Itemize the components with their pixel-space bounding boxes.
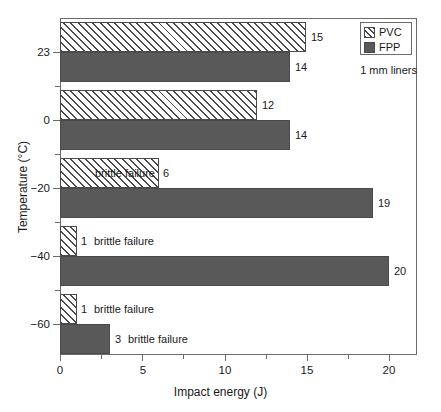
bar-fpp-minus20: [60, 188, 373, 218]
legend: PVC FPP: [360, 22, 412, 55]
ytick-boundary-1: [55, 86, 60, 87]
xtick-label-20: 20: [374, 364, 404, 376]
xtick-label-5: 5: [128, 364, 158, 376]
ytick-0: [53, 120, 60, 121]
ytick-minus40: [53, 256, 60, 257]
annotation-pvc-minus60: brittle failure: [94, 304, 154, 315]
ytick-label-minus60: −60: [18, 318, 50, 330]
value-label-pvc-minus60: 1: [81, 304, 87, 315]
bar-pvc-23: [60, 22, 306, 52]
value-label-fpp-minus60: 3: [115, 334, 121, 345]
annotation-pvc-minus20: brittle failure: [95, 168, 155, 179]
bar-pvc-0: [60, 90, 257, 120]
xtick-label-15: 15: [292, 364, 322, 376]
legend-entry-pvc: PVC: [364, 26, 411, 39]
ytick-boundary-4: [55, 290, 60, 291]
ytick-boundary-3: [55, 222, 60, 223]
ytick-minus60: [53, 324, 60, 325]
value-label-fpp-minus40: 20: [394, 266, 406, 277]
value-label-pvc-minus40: 1: [81, 236, 87, 247]
xtick-15: [307, 355, 308, 361]
value-label-pvc-23: 15: [311, 32, 323, 43]
value-label-pvc-0: 12: [262, 100, 274, 111]
legend-label-fpp: FPP: [379, 42, 400, 53]
xtick-minor-17p5: [348, 355, 349, 359]
xtick-minor-12p5: [266, 355, 267, 359]
bar-fpp-23: [60, 52, 290, 82]
impact-energy-bar-chart: 15 14 12 14 brittle failure 6 19 1 britt…: [0, 0, 441, 412]
value-label-fpp-minus20: 19: [378, 198, 390, 209]
ytick-label-23: 23: [18, 46, 50, 58]
bar-fpp-0: [60, 120, 290, 150]
bar-pvc-minus40: [60, 226, 77, 256]
annotation-fpp-minus60: brittle failure: [128, 334, 188, 345]
value-label-fpp-0: 14: [295, 130, 307, 141]
hatched-swatch-icon: [364, 27, 375, 38]
xtick-minor-2p5: [101, 355, 102, 359]
bar-fpp-minus40: [60, 256, 389, 286]
x-axis-title: Impact energy (J): [0, 385, 441, 399]
value-label-pvc-minus20: 6: [163, 168, 169, 179]
legend-label-pvc: PVC: [379, 27, 402, 38]
legend-entry-fpp: FPP: [364, 41, 411, 54]
legend-caption: 1 mm liners: [333, 64, 417, 76]
xtick-10: [225, 355, 226, 361]
xtick-0: [60, 355, 61, 361]
value-label-fpp-23: 14: [295, 62, 307, 73]
annotation-pvc-minus40: brittle failure: [94, 236, 154, 247]
xtick-5: [142, 355, 143, 361]
y-axis-title: Temperature (°C): [16, 112, 30, 262]
solid-gray-swatch-icon: [364, 42, 375, 53]
xtick-label-0: 0: [45, 364, 75, 376]
bar-pvc-minus60: [60, 294, 77, 324]
ytick-minus20: [53, 188, 60, 189]
xtick-minor-7p5: [183, 355, 184, 359]
bar-fpp-minus60: [60, 324, 110, 354]
xtick-20: [389, 355, 390, 361]
xtick-label-10: 10: [210, 364, 240, 376]
ytick-boundary-2: [55, 154, 60, 155]
ytick-23: [53, 52, 60, 53]
